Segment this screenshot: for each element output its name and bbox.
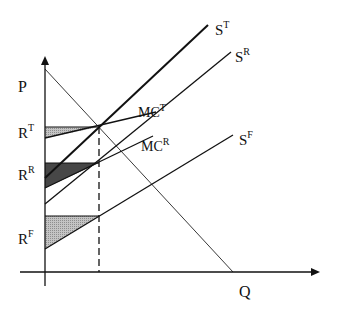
supply-curve-t [45,25,208,178]
label-supply-f: SF [239,129,253,148]
label-rent-t: RT [18,122,34,141]
x-axis-label: Q [239,283,251,300]
x-axis-arrow-icon [311,268,320,276]
label-mc-r: MCR [141,136,170,154]
y-axis-arrow-icon [41,56,49,65]
y-axis-label: P [18,78,27,95]
label-mc-t: MCT [138,102,166,120]
label-supply-t: ST [215,19,229,38]
label-rent-r: RR [18,164,35,183]
label-rent-f: RF [18,228,34,247]
label-supply-r: SR [235,46,250,65]
economics-diagram: P Q ST SR SF MCT MCR RT RR RF [0,0,338,311]
